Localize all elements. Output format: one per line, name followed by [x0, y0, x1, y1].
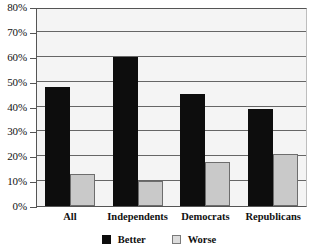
bar-worse-all[interactable]: [70, 174, 95, 206]
y-axis-tick-label: 40%: [7, 102, 27, 113]
y-axis-tick-label: 20%: [7, 151, 27, 162]
x-axis-category-label: All: [36, 211, 104, 223]
bar-chart: 0%10%20%30%40%50%60%70%80% AllIndependen…: [0, 0, 318, 251]
bar-better-all[interactable]: [45, 87, 70, 206]
bar-worse-republicans[interactable]: [273, 154, 298, 206]
bar-worse-independents[interactable]: [138, 181, 163, 206]
x-axis-category-label: Independents: [104, 211, 172, 223]
legend-label-better: Better: [118, 234, 146, 245]
x-axis-category-label: Republicans: [239, 211, 307, 223]
y-axis-tick-label: 30%: [7, 126, 27, 137]
y-axis-tick: [30, 58, 36, 59]
y-axis-tick-label: 60%: [7, 52, 27, 63]
y-axis-tick: [30, 8, 36, 9]
y-axis-tick-label: 80%: [7, 2, 27, 13]
y-axis-tick-label: 10%: [7, 176, 27, 187]
legend-item-better[interactable]: Better: [102, 234, 146, 245]
bar-better-independents[interactable]: [113, 57, 138, 206]
bar-better-republicans[interactable]: [248, 109, 273, 206]
y-axis-tick: [30, 108, 36, 109]
y-axis-tick: [30, 157, 36, 158]
gridline: [36, 56, 306, 57]
y-axis-tick: [30, 83, 36, 84]
plot-area: [36, 8, 307, 207]
x-axis-category-label: Democrats: [172, 211, 240, 223]
gridline: [36, 106, 306, 107]
y-axis-tick: [30, 33, 36, 34]
y-axis-tick-label: 70%: [7, 27, 27, 38]
y-axis-tick-label: 0%: [13, 201, 27, 212]
y-axis-tick: [30, 132, 36, 133]
legend-label-worse: Worse: [188, 234, 217, 245]
y-axis-tick-label: 50%: [7, 77, 27, 88]
chart-legend: Better Worse: [0, 234, 318, 245]
y-axis-line: [36, 8, 37, 208]
bar-better-democrats[interactable]: [180, 94, 205, 206]
bar-worse-democrats[interactable]: [205, 162, 230, 206]
legend-swatch-worse-icon: [172, 235, 181, 244]
gridline: [36, 31, 306, 32]
gridline: [36, 81, 306, 82]
y-axis-tick: [30, 182, 36, 183]
y-axis-tick: [30, 207, 36, 208]
legend-swatch-better-icon: [102, 235, 111, 244]
legend-item-worse[interactable]: Worse: [172, 234, 217, 245]
